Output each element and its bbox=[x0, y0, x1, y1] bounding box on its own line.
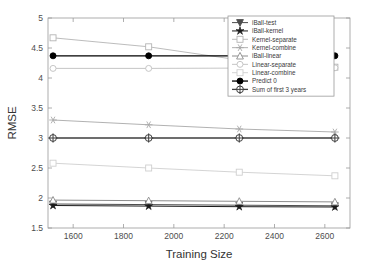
data-point bbox=[50, 65, 56, 71]
y-tick-label: 4.5 bbox=[31, 43, 43, 53]
legend-item-kernel-combine[interactable]: Kernel-combine bbox=[232, 44, 297, 51]
legend-item-iball-linear[interactable]: iBall-linear bbox=[232, 52, 281, 59]
y-tick-label: 1.5 bbox=[31, 223, 43, 233]
data-point bbox=[236, 169, 242, 175]
data-point bbox=[146, 53, 152, 59]
legend-item-kernel-separate[interactable]: Kernel-separate bbox=[232, 36, 297, 44]
legend-label: iBall-linear bbox=[252, 52, 281, 59]
data-point bbox=[146, 65, 152, 71]
legend-item-predict-0[interactable]: Predict 0 bbox=[232, 77, 277, 84]
y-tick-label: 3.5 bbox=[31, 103, 43, 113]
legend-label: Kernel-combine bbox=[252, 44, 297, 51]
data-point bbox=[50, 53, 56, 59]
x-tick-label: 2400 bbox=[265, 231, 284, 241]
data-point bbox=[332, 173, 338, 179]
data-point bbox=[50, 35, 56, 41]
rmse-vs-training-size-line-chart: 160018002000220024002600 1.522.533.544.5… bbox=[0, 0, 371, 266]
y-tick-label: 2.5 bbox=[31, 163, 43, 173]
legend-label: Kernel-separate bbox=[252, 36, 297, 44]
y-axis-label: RMSE bbox=[6, 106, 18, 140]
x-tick-label: 1800 bbox=[114, 231, 133, 241]
legend-label: Linear-separate bbox=[252, 61, 297, 69]
x-tick-label: 1600 bbox=[64, 231, 83, 241]
chart-legend: iBall-testiBall-kernelKernel-separateKer… bbox=[228, 16, 334, 96]
data-point bbox=[146, 44, 152, 50]
x-axis-label: Training Size bbox=[166, 248, 233, 260]
chart-figure: 160018002000220024002600 1.522.533.544.5… bbox=[0, 0, 371, 266]
data-point bbox=[50, 160, 56, 166]
x-tick-label: 2200 bbox=[215, 231, 234, 241]
y-tick-label: 3 bbox=[38, 133, 43, 143]
legend-label: iBall-kernel bbox=[252, 27, 283, 34]
legend-label: Linear-combine bbox=[252, 69, 296, 76]
y-tick-label: 2 bbox=[38, 193, 43, 203]
legend-label: Predict 0 bbox=[252, 77, 277, 84]
y-tick-label: 4 bbox=[38, 73, 43, 83]
x-tick-label: 2000 bbox=[164, 231, 183, 241]
legend-item-linear-combine[interactable]: Linear-combine bbox=[232, 69, 296, 76]
legend-label: Sum of first 3 years bbox=[252, 86, 306, 94]
legend-label: iBall-test bbox=[252, 19, 276, 26]
y-tick-label: 5 bbox=[38, 13, 43, 23]
x-tick-label: 2600 bbox=[315, 231, 334, 241]
data-point bbox=[146, 165, 152, 171]
